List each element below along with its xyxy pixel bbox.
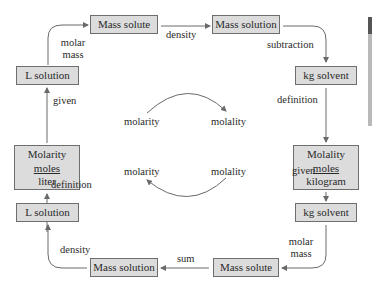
box-mass-solution-top: Mass solution (212, 15, 280, 34)
center-molality-bottom: molality (211, 166, 246, 178)
label-density-top: density (166, 29, 196, 41)
box-l-solution-top: L solution (16, 66, 79, 85)
molality-denominator: kilogram (294, 175, 358, 189)
arc-molarity-to-molality (147, 93, 226, 113)
label-definition-left: definition (51, 179, 92, 191)
box-kg-solvent-top: kg solvent (295, 66, 357, 85)
label-given-right: given (292, 165, 315, 177)
box-kg-solvent-bottom: kg solvent (295, 203, 357, 222)
label-molar: molar (286, 236, 316, 248)
box-mass-solute-bottom: Mass solute (213, 258, 279, 277)
label-molar-mass-top: molar mass (58, 37, 88, 61)
label-molar-mass-bottom: molar mass (286, 236, 316, 260)
box-l-solution-bottom: L solution (16, 203, 79, 222)
molality-title: Molality (294, 148, 358, 162)
label-density-bottom: density (60, 244, 90, 256)
label-definition-right: definition (277, 94, 318, 106)
center-molarity-top: molarity (124, 116, 160, 128)
molarity-title: Molarity (15, 148, 79, 162)
box-mass-solution-bottom: Mass solution (90, 258, 158, 277)
label-subtraction: subtraction (267, 39, 314, 51)
molarity-numerator: moles (15, 162, 79, 176)
label-molar: molar (58, 37, 88, 49)
label-given-left: given (53, 95, 76, 107)
center-molality-top: molality (211, 116, 246, 128)
arrows-layer (0, 0, 376, 283)
label-mass: mass (286, 248, 316, 260)
side-bar-cap (368, 17, 372, 34)
label-sum: sum (177, 253, 195, 265)
side-bar (368, 17, 372, 126)
arc-molality-to-molarity (147, 178, 226, 197)
label-mass: mass (58, 49, 88, 61)
box-mass-solute-top: Mass solute (90, 15, 158, 34)
center-molarity-bottom: molarity (124, 166, 160, 178)
